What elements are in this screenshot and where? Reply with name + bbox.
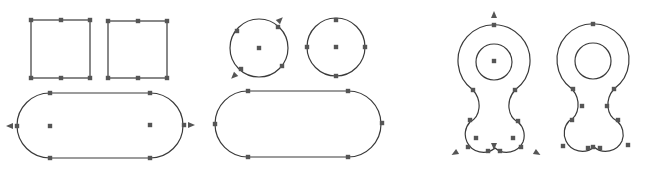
grip-handle[interactable] bbox=[346, 155, 350, 159]
grip-handle[interactable] bbox=[334, 74, 338, 78]
grip-handle[interactable] bbox=[165, 76, 169, 80]
grip-handle[interactable] bbox=[519, 145, 523, 149]
grip-handle[interactable] bbox=[59, 76, 63, 80]
grip-handle[interactable] bbox=[511, 136, 515, 140]
arrow-grip-layer bbox=[6, 11, 542, 158]
grip-handle[interactable] bbox=[605, 104, 609, 108]
grip-handle[interactable] bbox=[257, 46, 261, 50]
grip-handle[interactable] bbox=[235, 29, 239, 33]
grip-handle[interactable] bbox=[498, 149, 502, 153]
arrow-grip-icon[interactable] bbox=[6, 123, 13, 129]
grip-handle[interactable] bbox=[334, 18, 338, 22]
grip-handle[interactable] bbox=[516, 119, 520, 123]
grip-handle[interactable] bbox=[346, 89, 350, 93]
square-left bbox=[31, 20, 90, 78]
diagram-canvas bbox=[0, 0, 647, 172]
grip-handle[interactable] bbox=[591, 22, 595, 26]
grip-handle[interactable] bbox=[363, 45, 367, 49]
grip-handle[interactable] bbox=[280, 64, 284, 68]
grip-handle[interactable] bbox=[239, 67, 243, 71]
grip-handle[interactable] bbox=[48, 91, 52, 95]
grip-handle[interactable] bbox=[136, 19, 140, 23]
grip-handle[interactable] bbox=[591, 145, 595, 149]
grip-handle[interactable] bbox=[165, 19, 169, 23]
grip-handle[interactable] bbox=[570, 118, 574, 122]
grip-handle[interactable] bbox=[48, 156, 52, 160]
grip-handle[interactable] bbox=[48, 124, 52, 128]
grip-handle[interactable] bbox=[468, 118, 472, 122]
keyhole-left bbox=[458, 25, 530, 153]
arrow-grip-icon[interactable] bbox=[276, 15, 285, 24]
grip-handle[interactable] bbox=[471, 88, 475, 92]
grip-handle[interactable] bbox=[513, 88, 517, 92]
grip-handle[interactable] bbox=[148, 156, 152, 160]
grip-handle[interactable] bbox=[334, 45, 338, 49]
arrow-grip-icon[interactable] bbox=[450, 149, 459, 158]
arrow-grip-icon[interactable] bbox=[491, 11, 497, 18]
grip-handle[interactable] bbox=[616, 118, 620, 122]
arrow-grip-icon[interactable] bbox=[188, 122, 195, 128]
grip-handle[interactable] bbox=[15, 124, 19, 128]
grip-handle[interactable] bbox=[246, 89, 250, 93]
grip-handle[interactable] bbox=[626, 143, 630, 147]
grip-handle[interactable] bbox=[492, 59, 496, 63]
grip-handle[interactable] bbox=[466, 145, 470, 149]
grip-handle[interactable] bbox=[580, 104, 584, 108]
stadium-left bbox=[17, 93, 183, 158]
grip-handle[interactable] bbox=[59, 18, 63, 22]
grip-handle[interactable] bbox=[305, 45, 309, 49]
grip-handle[interactable] bbox=[492, 23, 496, 27]
grip-handle[interactable] bbox=[29, 18, 33, 22]
grip-layer bbox=[15, 18, 630, 160]
grip-handle[interactable] bbox=[106, 76, 110, 80]
keyhole-right bbox=[557, 24, 629, 152]
grip-handle[interactable] bbox=[136, 76, 140, 80]
grip-handle[interactable] bbox=[29, 76, 33, 80]
grip-handle[interactable] bbox=[571, 87, 575, 91]
arrow-grip-icon[interactable] bbox=[229, 72, 238, 81]
grip-handle[interactable] bbox=[612, 87, 616, 91]
grip-handle[interactable] bbox=[561, 144, 565, 148]
grip-handle[interactable] bbox=[598, 146, 602, 150]
grip-handle[interactable] bbox=[148, 91, 152, 95]
grip-handle[interactable] bbox=[213, 122, 217, 126]
arrow-grip-icon[interactable] bbox=[533, 149, 542, 158]
grip-handle[interactable] bbox=[380, 121, 384, 125]
square-right bbox=[108, 21, 167, 78]
grip-handle[interactable] bbox=[276, 25, 280, 29]
grip-handle[interactable] bbox=[486, 149, 490, 153]
grip-handle[interactable] bbox=[182, 123, 186, 127]
grip-handle[interactable] bbox=[88, 18, 92, 22]
grip-handle[interactable] bbox=[586, 146, 590, 150]
grip-handle[interactable] bbox=[246, 155, 250, 159]
grip-handle[interactable] bbox=[88, 76, 92, 80]
stadium-right bbox=[215, 91, 381, 157]
grip-handle[interactable] bbox=[106, 19, 110, 23]
grip-handle[interactable] bbox=[474, 136, 478, 140]
grip-handle[interactable] bbox=[148, 123, 152, 127]
